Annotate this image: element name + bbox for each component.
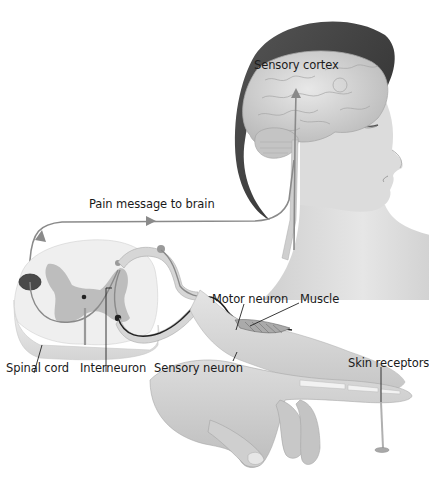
label-motor-neuron: Motor neuron bbox=[212, 292, 288, 306]
label-spinal-cord: Spinal cord bbox=[6, 361, 69, 375]
diagram-canvas: Sensory cortex Pain message to brain Mot… bbox=[0, 0, 429, 486]
label-skin-receptors: Skin receptors bbox=[348, 356, 429, 370]
illustration bbox=[0, 0, 429, 486]
label-muscle: Muscle bbox=[300, 292, 339, 306]
label-sensory-cortex: Sensory cortex bbox=[254, 58, 339, 72]
label-sensory-neuron: Sensory neuron bbox=[154, 361, 243, 375]
label-pain-message: Pain message to brain bbox=[89, 197, 215, 211]
label-interneuron: Interneuron bbox=[80, 361, 146, 375]
tack bbox=[375, 402, 389, 453]
